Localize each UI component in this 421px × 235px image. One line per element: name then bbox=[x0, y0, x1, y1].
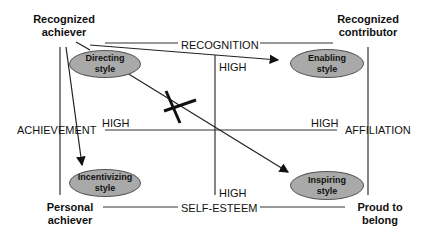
ellipse-incentivizing-style: Incentivizing style bbox=[69, 169, 141, 197]
ellipse-directing-style: Directing style bbox=[69, 50, 141, 78]
ellipse-enabling-style: Enabling style bbox=[290, 49, 364, 78]
incentivizing-line1: Incentivizing bbox=[78, 172, 133, 183]
corner-top-left-line1: Recognized bbox=[4, 13, 124, 26]
corner-top-right-line1: Recognized bbox=[318, 13, 418, 26]
enabling-line2: style bbox=[308, 64, 346, 75]
corner-bottom-right: Proud to belong bbox=[340, 201, 420, 227]
corner-bottom-right-line2: belong bbox=[340, 214, 420, 227]
corner-bottom-left-line1: Personal bbox=[25, 201, 115, 214]
corner-bottom-left-line2: achiever bbox=[25, 214, 115, 227]
corner-top-left: Recognized achiever bbox=[4, 13, 124, 39]
high-label-bottom: HIGH bbox=[219, 187, 247, 199]
axis-label-achievement: ACHIEVEMENT bbox=[17, 124, 96, 136]
inspiring-line1: Inspiring bbox=[308, 175, 346, 186]
high-label-left: HIGH bbox=[102, 117, 130, 129]
axis-label-affiliation: AFFILIATION bbox=[345, 124, 411, 136]
corner-bottom-left: Personal achiever bbox=[25, 201, 115, 227]
incentivizing-line2: style bbox=[78, 183, 133, 194]
directing-line1: Directing bbox=[85, 53, 124, 64]
inspiring-line2: style bbox=[308, 186, 346, 197]
directing-line2: style bbox=[85, 64, 124, 75]
ellipse-inspiring-style: Inspiring style bbox=[290, 171, 364, 200]
axis-label-self-esteem: SELF-ESTEEM bbox=[181, 202, 257, 214]
enabling-line1: Enabling bbox=[308, 53, 346, 64]
corner-bottom-right-line1: Proud to bbox=[340, 201, 420, 214]
high-label-top: HIGH bbox=[219, 61, 247, 73]
axis-label-recognition: RECOGNITION bbox=[181, 39, 259, 51]
corner-top-right-line2: contributor bbox=[318, 26, 418, 39]
high-label-right: HIGH bbox=[311, 117, 339, 129]
corner-top-left-line2: achiever bbox=[4, 26, 124, 39]
corner-top-right: Recognized contributor bbox=[318, 13, 418, 39]
